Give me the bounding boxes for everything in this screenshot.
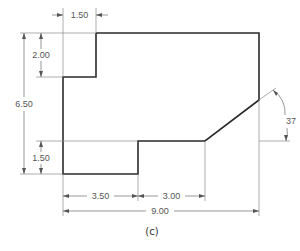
dimension-top-step-width: 1.50 (52, 10, 108, 20)
dimension-overall-height: 6.50 (15, 33, 33, 174)
label-chamfer-angle: 37 (286, 116, 296, 126)
dimension-top-step-height: 2.00 (32, 33, 50, 77)
extension-lines (20, 8, 290, 216)
dimension-bottom-left-width: 3.50 (63, 191, 138, 201)
label-overall-width: 9.00 (151, 206, 169, 216)
label-overall-height: 6.50 (15, 99, 33, 109)
label-bottom-middle-width: 3.00 (163, 191, 181, 201)
label-top-step-height: 2.00 (32, 50, 50, 60)
dimension-overall-width: 9.00 (63, 206, 259, 216)
dimension-bottom-step-height: 1.50 (32, 141, 50, 174)
part-outline (63, 33, 259, 174)
figure-caption: (c) (145, 226, 158, 237)
technical-drawing: 1.50 2.00 6.50 1.50 3.50 3.00 (0, 0, 300, 251)
dimension-chamfer-angle: 37 (273, 90, 296, 141)
label-top-step-width: 1.50 (71, 10, 89, 20)
dimension-bottom-middle-width: 3.00 (138, 191, 205, 201)
label-bottom-left-width: 3.50 (92, 191, 110, 201)
label-bottom-step-height: 1.50 (32, 153, 50, 163)
